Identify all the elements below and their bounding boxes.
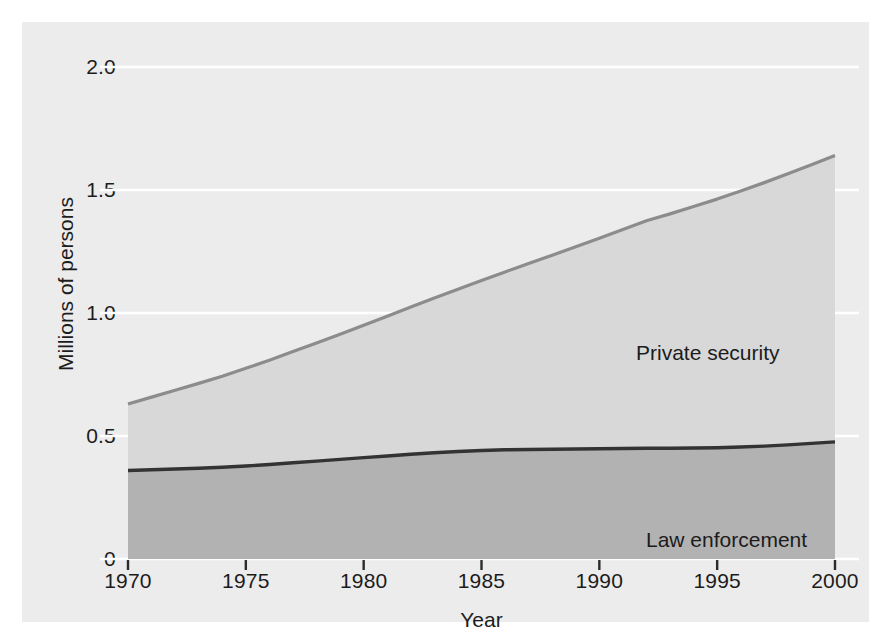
x-axis-tick-label: 1985	[458, 570, 506, 591]
y-axis-title: Millions of persons	[54, 154, 78, 414]
x-axis-tick-label: 1995	[693, 570, 741, 591]
series-label-law-enforcement: Law enforcement	[646, 529, 807, 550]
x-axis-tick-labels: 1970197519801985199019952000	[128, 570, 835, 600]
stacked-area-plot	[128, 67, 835, 559]
x-axis-tick-label: 1975	[222, 570, 270, 591]
x-axis-tick-label: 1970	[104, 570, 152, 591]
chart-panel: 00.51.01.52.0 Millions of persons Privat…	[22, 22, 869, 622]
x-axis-title: Year	[128, 608, 835, 632]
plot-area: Private security Law enforcement	[128, 67, 835, 559]
figure-root: 00.51.01.52.0 Millions of persons Privat…	[0, 0, 891, 643]
x-axis-tick-label: 2000	[811, 570, 859, 591]
x-axis-tick-label: 1980	[340, 570, 388, 591]
x-axis-tick-label: 1990	[576, 570, 624, 591]
series-label-private-security: Private security	[636, 342, 780, 363]
